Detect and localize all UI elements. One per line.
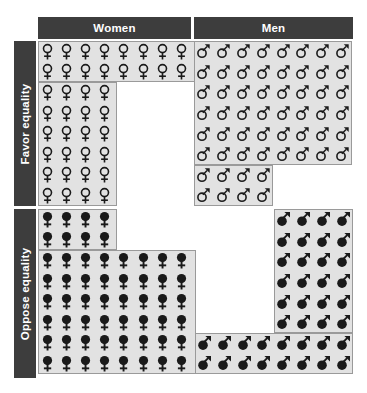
pictogram-row bbox=[38, 333, 191, 354]
pictogram-row bbox=[194, 209, 353, 230]
mars-filled-icon bbox=[313, 333, 333, 354]
venus-outline-icon bbox=[172, 41, 191, 62]
venus-outline-icon bbox=[114, 62, 133, 83]
mars-outline-icon bbox=[214, 123, 234, 144]
venus-filled-icon bbox=[38, 333, 57, 354]
venus-filled-icon bbox=[38, 291, 57, 312]
mars-outline-icon bbox=[273, 123, 293, 144]
mars-filled-icon bbox=[234, 353, 254, 374]
venus-filled-icon bbox=[114, 291, 133, 312]
venus-filled-icon bbox=[133, 333, 152, 354]
venus-outline-icon bbox=[153, 62, 172, 83]
mars-filled-icon bbox=[313, 312, 333, 333]
pictogram-row bbox=[194, 123, 353, 144]
mars-filled-icon bbox=[333, 250, 353, 271]
venus-filled-icon bbox=[172, 312, 191, 333]
venus-filled-icon bbox=[76, 271, 95, 292]
mars-filled-icon bbox=[254, 333, 274, 354]
mars-outline-icon bbox=[333, 103, 353, 124]
venus-filled-icon bbox=[95, 250, 114, 271]
mars-outline-icon bbox=[253, 62, 273, 83]
venus-outline-icon bbox=[57, 62, 76, 83]
mars-outline-icon bbox=[273, 144, 293, 165]
venus-outline-icon bbox=[95, 82, 114, 103]
mars-outline-icon bbox=[234, 82, 254, 103]
pictogram-row bbox=[194, 185, 353, 206]
venus-filled-icon bbox=[38, 353, 57, 374]
venus-outline-icon bbox=[76, 62, 95, 83]
mars-outline-icon bbox=[293, 123, 313, 144]
mars-filled-icon bbox=[274, 353, 294, 374]
venus-outline-icon bbox=[57, 123, 76, 144]
pictogram-row bbox=[38, 271, 191, 292]
mars-filled-icon bbox=[274, 230, 294, 251]
venus-filled-icon bbox=[153, 312, 172, 333]
cell-women-oppose-equality bbox=[38, 209, 191, 378]
mars-outline-icon bbox=[333, 144, 353, 165]
mars-outline-icon bbox=[194, 41, 214, 62]
mars-outline-icon bbox=[214, 62, 234, 83]
mars-filled-icon bbox=[195, 353, 215, 374]
mars-outline-icon bbox=[234, 144, 254, 165]
pictogram-chart: Women Men Favor equality Oppose equality bbox=[0, 0, 367, 393]
venus-filled-icon bbox=[57, 353, 76, 374]
mars-filled-icon bbox=[294, 250, 314, 271]
venus-filled-icon bbox=[153, 271, 172, 292]
venus-outline-icon bbox=[57, 41, 76, 62]
venus-outline-icon bbox=[38, 62, 57, 83]
mars-outline-icon bbox=[214, 165, 234, 186]
pictogram-row bbox=[38, 185, 191, 206]
venus-filled-icon bbox=[95, 271, 114, 292]
pictogram-row bbox=[38, 250, 191, 271]
mars-outline-icon bbox=[313, 144, 333, 165]
venus-outline-icon bbox=[95, 123, 114, 144]
venus-filled-icon bbox=[38, 230, 57, 251]
venus-outline-icon bbox=[38, 82, 57, 103]
venus-filled-icon bbox=[95, 333, 114, 354]
venus-filled-icon bbox=[76, 353, 95, 374]
mars-filled-icon bbox=[313, 353, 333, 374]
pictogram-row bbox=[194, 230, 353, 251]
mars-outline-icon bbox=[194, 165, 214, 186]
mars-filled-icon bbox=[294, 353, 314, 374]
venus-filled-icon bbox=[153, 333, 172, 354]
pictogram-row bbox=[38, 82, 191, 103]
venus-outline-icon bbox=[95, 103, 114, 124]
mars-filled-icon bbox=[313, 291, 333, 312]
pictogram-row bbox=[38, 144, 191, 165]
venus-filled-icon bbox=[172, 250, 191, 271]
pictogram-row bbox=[194, 291, 353, 312]
mars-outline-icon bbox=[253, 103, 273, 124]
mars-filled-icon bbox=[294, 312, 314, 333]
mars-filled-icon bbox=[333, 271, 353, 292]
mars-outline-icon bbox=[333, 41, 353, 62]
mars-outline-icon bbox=[253, 41, 273, 62]
venus-filled-icon bbox=[133, 312, 152, 333]
venus-filled-icon bbox=[57, 230, 76, 251]
column-header-women-label: Women bbox=[93, 22, 135, 34]
mars-filled-icon bbox=[333, 291, 353, 312]
venus-outline-icon bbox=[95, 144, 114, 165]
venus-outline-icon bbox=[38, 103, 57, 124]
mars-outline-icon bbox=[293, 144, 313, 165]
venus-filled-icon bbox=[153, 291, 172, 312]
mars-outline-icon bbox=[194, 62, 214, 83]
venus-filled-icon bbox=[57, 250, 76, 271]
venus-filled-icon bbox=[172, 291, 191, 312]
mars-outline-icon bbox=[234, 123, 254, 144]
venus-filled-icon bbox=[114, 333, 133, 354]
pictogram-row bbox=[194, 103, 353, 124]
venus-filled-icon bbox=[133, 271, 152, 292]
venus-filled-icon bbox=[133, 250, 152, 271]
pictogram-row bbox=[38, 62, 191, 83]
mars-outline-icon bbox=[253, 144, 273, 165]
venus-outline-icon bbox=[76, 144, 95, 165]
mars-filled-icon bbox=[294, 271, 314, 292]
pictogram-row bbox=[38, 230, 191, 251]
mars-outline-icon bbox=[234, 165, 254, 186]
mars-outline-icon bbox=[293, 41, 313, 62]
pictogram-row bbox=[194, 271, 353, 292]
venus-outline-icon bbox=[76, 41, 95, 62]
venus-outline-icon bbox=[38, 185, 57, 206]
venus-outline-icon bbox=[172, 62, 191, 83]
